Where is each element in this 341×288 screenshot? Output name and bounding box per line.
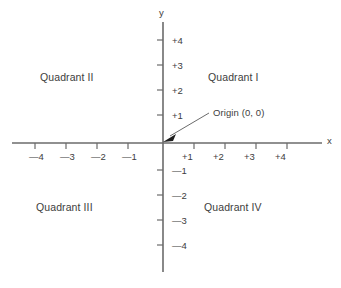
- y-tick-label-pos1: +1: [172, 111, 183, 121]
- x-tick-label-neg1: —1: [122, 152, 137, 162]
- quadrant-label-2: Quadrant II: [40, 72, 94, 83]
- quadrant-label-1: Quadrant I: [208, 72, 259, 83]
- quadrant-label-4: Quadrant IV: [204, 202, 262, 213]
- x-axis-label: x: [327, 136, 332, 146]
- y-tick-label-neg4: —4: [172, 241, 187, 251]
- x-tick-label-neg3: —3: [60, 152, 75, 162]
- quadrant-label-3: Quadrant III: [36, 202, 93, 213]
- coordinate-plane-graphic: [0, 0, 341, 288]
- origin-arrowhead: [163, 134, 176, 142]
- x-tick-label-pos4: +4: [275, 152, 286, 162]
- y-axis-label: y: [159, 8, 164, 18]
- x-tick-label-pos3: +3: [244, 152, 255, 162]
- y-tick-label-pos3: +3: [172, 61, 183, 71]
- x-tick-label-pos2: +2: [213, 152, 224, 162]
- y-tick-label-pos4: +4: [172, 36, 183, 46]
- x-axis-ticks: [35, 143, 287, 149]
- origin-annotation-label: Origin (0, 0): [213, 108, 264, 118]
- y-tick-label-neg3: —3: [172, 216, 187, 226]
- coordinate-plane-figure: x y —4 —3 —2 —1 +1 +2 +3 +4 +4 +3 +2 +1 …: [0, 0, 341, 288]
- x-tick-label-neg4: —4: [29, 152, 44, 162]
- y-tick-label-pos2: +2: [172, 86, 183, 96]
- x-tick-label-pos1: +1: [182, 152, 193, 162]
- y-tick-label-neg2: —2: [172, 191, 187, 201]
- x-tick-label-neg2: —2: [91, 152, 106, 162]
- y-tick-label-neg1: —1: [172, 166, 187, 176]
